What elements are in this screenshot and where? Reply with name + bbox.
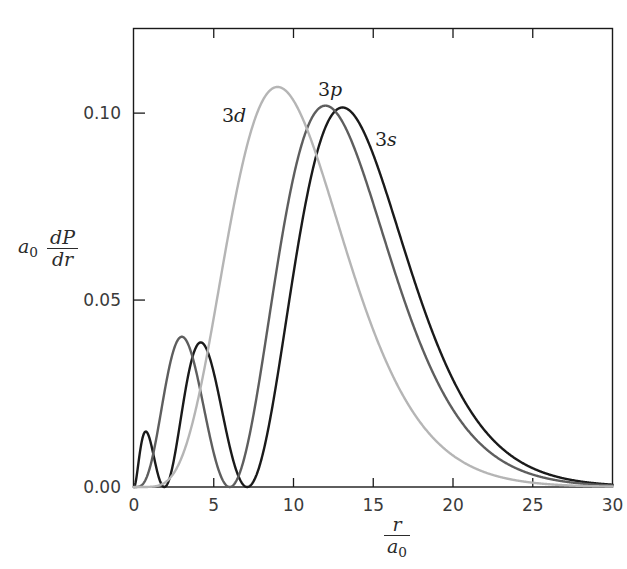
radial-probability-chart: 051015202530 0.000.050.10 a0dPdr ra0 3d … <box>0 0 627 569</box>
curve-label-3d: 3d <box>222 104 246 126</box>
plot-canvas: 051015202530 0.000.050.10 <box>0 0 627 569</box>
x-tick-label: 0 <box>129 495 140 515</box>
curve-3p <box>134 106 613 487</box>
x-axis-title-numerator: r <box>384 515 410 536</box>
curve-label-3p-digit: 3 <box>318 78 330 100</box>
y-tick-label: 0.10 <box>83 103 121 123</box>
y-axis-ticks <box>134 113 145 300</box>
x-axis-title-denominator: a0 <box>384 536 410 560</box>
x-tick-label: 30 <box>602 495 624 515</box>
y-axis-title-numerator: dP <box>47 228 78 249</box>
y-axis-title-prefix: a <box>18 235 29 257</box>
data-curves <box>134 87 613 487</box>
curve-label-3p-orbital: p <box>330 78 342 100</box>
x-axis-tick-labels: 051015202530 <box>129 495 624 515</box>
curve-3s <box>134 108 613 487</box>
x-tick-label: 10 <box>283 495 305 515</box>
y-tick-label: 0.00 <box>83 477 121 497</box>
x-axis-ticks-top <box>214 29 533 38</box>
y-axis-title-prefix-sub: 0 <box>29 244 38 260</box>
curve-label-3s-orbital: s <box>387 128 397 150</box>
curve-label-3d-orbital: d <box>234 104 246 126</box>
x-axis-ticks <box>214 478 533 487</box>
x-tick-label: 5 <box>208 495 219 515</box>
x-axis-title-denominator-sub: 0 <box>398 544 407 560</box>
y-axis-title: a0dPdr <box>18 228 78 269</box>
x-axis-title: ra0 <box>384 515 410 560</box>
curve-label-3s: 3s <box>375 128 397 150</box>
y-axis-title-fraction: dPdr <box>47 228 78 269</box>
curve-label-3s-digit: 3 <box>375 128 387 150</box>
x-tick-label: 15 <box>362 495 384 515</box>
x-tick-label: 25 <box>522 495 544 515</box>
x-axis-title-denominator-base: a <box>387 535 398 557</box>
y-axis-title-denominator: dr <box>47 249 78 269</box>
x-tick-label: 20 <box>442 495 464 515</box>
curve-label-3d-digit: 3 <box>222 104 234 126</box>
curve-label-3p: 3p <box>318 78 342 100</box>
curve-3d <box>134 87 613 487</box>
x-axis-title-fraction: ra0 <box>384 515 410 560</box>
y-axis-tick-labels: 0.000.050.10 <box>83 103 121 497</box>
y-tick-label: 0.05 <box>83 290 121 310</box>
